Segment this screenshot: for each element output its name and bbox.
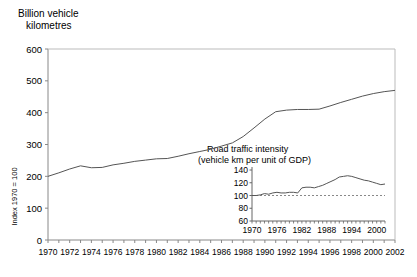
svg-text:1996: 1996 <box>320 247 339 257</box>
svg-text:1972: 1972 <box>60 247 79 257</box>
main-axes <box>45 49 395 243</box>
inset-axes <box>250 167 386 224</box>
svg-text:1974: 1974 <box>82 247 101 257</box>
svg-text:1976: 1976 <box>104 247 123 257</box>
chart-plot-area: 0100200300400500600197019721974197619781… <box>0 0 417 277</box>
svg-text:2000: 2000 <box>364 247 383 257</box>
svg-text:1970: 1970 <box>243 225 262 235</box>
svg-text:500: 500 <box>26 75 42 86</box>
svg-text:1976: 1976 <box>267 225 286 235</box>
svg-text:200: 200 <box>26 171 42 182</box>
main-data-series <box>48 90 395 176</box>
svg-text:0: 0 <box>37 235 42 246</box>
svg-text:100: 100 <box>26 203 42 214</box>
svg-text:1988: 1988 <box>317 225 336 235</box>
svg-text:1980: 1980 <box>147 247 166 257</box>
svg-text:2000: 2000 <box>367 225 386 235</box>
svg-text:1988: 1988 <box>234 247 253 257</box>
svg-text:1994: 1994 <box>299 247 318 257</box>
inset-tick-labels: 6080100120140197019761982198819942000 <box>234 165 387 235</box>
svg-text:80: 80 <box>239 203 249 213</box>
svg-text:1978: 1978 <box>125 247 144 257</box>
svg-text:1982: 1982 <box>292 225 311 235</box>
svg-text:1986: 1986 <box>212 247 231 257</box>
svg-text:1998: 1998 <box>342 247 361 257</box>
svg-text:1994: 1994 <box>342 225 361 235</box>
svg-text:2002: 2002 <box>386 247 405 257</box>
chart-figure: Billion vehicle kilometres Road traffic … <box>0 0 417 277</box>
svg-text:1982: 1982 <box>169 247 188 257</box>
inset-data-series <box>252 176 385 196</box>
svg-text:140: 140 <box>234 165 248 175</box>
svg-text:1970: 1970 <box>39 247 58 257</box>
svg-text:1990: 1990 <box>255 247 274 257</box>
svg-text:1992: 1992 <box>277 247 296 257</box>
svg-text:600: 600 <box>26 44 42 55</box>
svg-text:400: 400 <box>26 107 42 118</box>
svg-text:100: 100 <box>234 191 248 201</box>
svg-text:1984: 1984 <box>190 247 209 257</box>
svg-text:120: 120 <box>234 178 248 188</box>
svg-text:300: 300 <box>26 139 42 150</box>
